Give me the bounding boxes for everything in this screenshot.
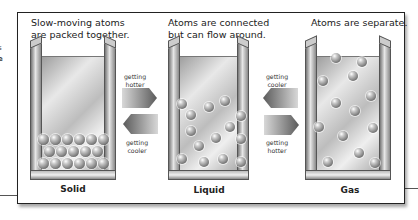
solid-caption: Slow-moving atoms are packed together. bbox=[31, 17, 130, 41]
transition-label-hotter: getting hotter bbox=[115, 73, 155, 88]
liquid-caption: Atoms are connected but can flow around. bbox=[168, 17, 269, 41]
state-label-liquid: Liquid bbox=[189, 185, 229, 195]
page-edge-line bbox=[404, 188, 418, 189]
state-label-solid: Solid bbox=[53, 184, 93, 194]
transition-label-cooler: getting cooler bbox=[257, 73, 297, 88]
transition-label-cooler: getting cooler bbox=[117, 139, 157, 154]
cut-off-text: s bbox=[0, 44, 2, 52]
arrow-left-icon bbox=[122, 114, 158, 134]
arrow-left-icon bbox=[262, 88, 298, 108]
gas-caption: Atoms are separate. bbox=[311, 17, 407, 29]
cut-off-text: e bbox=[0, 55, 3, 63]
arrow-right-icon bbox=[264, 115, 300, 135]
transition-label-hotter: getting hotter bbox=[257, 139, 297, 154]
state-label-gas: Gas bbox=[330, 185, 370, 195]
arrow-right-icon bbox=[122, 88, 158, 108]
